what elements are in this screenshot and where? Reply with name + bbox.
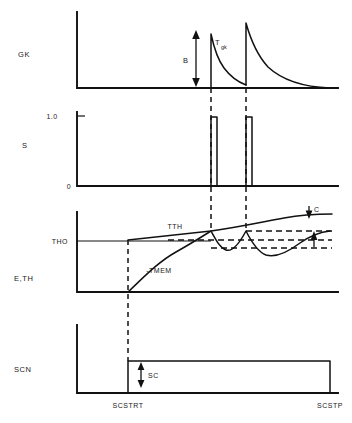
gk-spike-2-curve <box>246 23 330 88</box>
scstrt-label: SCSTRT <box>113 402 144 409</box>
tau-gk-label: T <box>215 38 220 47</box>
sc-amplitude-label: SC <box>148 372 159 379</box>
c-label: C <box>314 206 320 213</box>
s-pulse-1 <box>211 117 217 186</box>
panel-label-eth: E,TH <box>14 274 33 283</box>
s-tick-one-label: 1.0 <box>46 113 57 120</box>
b-arrow-head-up <box>192 30 200 39</box>
tau-gk-subscript: gk <box>221 44 227 50</box>
s-tick-zero-label: 0 <box>67 183 71 190</box>
scstp-label: SCSTP <box>317 402 343 409</box>
tho-tick-label: THO <box>52 238 68 245</box>
panel-label-gk: GK <box>18 50 30 59</box>
tth-threshold-curve <box>128 214 332 240</box>
scn-axes <box>77 325 338 393</box>
tth-label: TTH <box>167 223 182 230</box>
b-arrow-head-down <box>192 78 200 87</box>
sc-arrow-head-up <box>138 362 145 370</box>
timing-diagram-figure: B T gk GK 1.0 0 S THO <box>0 0 352 423</box>
tmem-label: -TMEM <box>146 267 171 274</box>
s-pulse-2 <box>246 117 252 186</box>
panel-eth: THO C TTH -TMEM E,TH <box>14 206 338 292</box>
timing-guide-lines <box>128 88 246 361</box>
panel-gk: B T gk GK <box>18 12 338 88</box>
panel-label-s: S <box>22 141 28 150</box>
s-axes <box>77 112 338 186</box>
panel-s: 1.0 0 S <box>22 112 338 190</box>
time-axis-labels: SCSTRT SCSTP <box>113 402 343 409</box>
b-amplitude-label: B <box>183 56 189 65</box>
panel-scn: SC SCN <box>14 325 338 393</box>
gk-axes <box>77 12 338 88</box>
sc-arrow-head-down <box>138 380 145 388</box>
panel-label-scn: SCN <box>14 365 32 374</box>
diagram-canvas: B T gk GK 1.0 0 S THO <box>0 0 352 423</box>
eth-axes <box>77 212 338 292</box>
